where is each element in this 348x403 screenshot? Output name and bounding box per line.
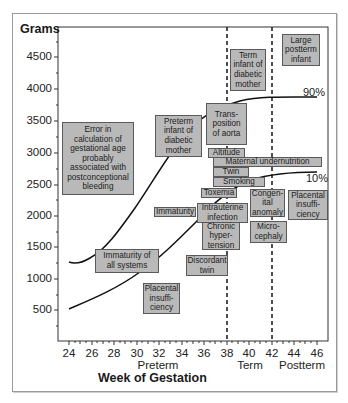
- annotation-error-gestational-age: Error in calculation of gestational age …: [62, 122, 134, 195]
- x-axis-title: Week of Gestation: [98, 371, 207, 385]
- y-tick-label: 1500: [12, 240, 52, 252]
- annotation-discordant-twin: Discordant twin: [186, 255, 228, 276]
- annotation-twin: Twin: [213, 167, 249, 177]
- phase-label-preterm: Preterm: [128, 359, 188, 371]
- x-tick-label: 38: [217, 347, 237, 359]
- x-tick-label: 26: [82, 347, 102, 359]
- y-tick-label: 3500: [12, 114, 52, 126]
- y-tick-label: 3000: [12, 146, 52, 158]
- phase-label-postterm: Postterm: [272, 359, 332, 371]
- x-tick-label: 30: [127, 347, 147, 359]
- annotation-transposition-aorta: Trans- position of aorta: [206, 103, 247, 145]
- percentile-90-label: 90%: [303, 86, 325, 98]
- x-tick-label: 34: [172, 347, 192, 359]
- annotation-intrauterine-infection: Intrauterine infection: [197, 203, 248, 223]
- annotation-large-postterm-infant: Large postterm infant: [282, 34, 320, 66]
- y-tick-label: 1000: [12, 272, 52, 284]
- annotation-preterm-diabetic-mother: Preterm infant of diabetic mother: [155, 115, 202, 157]
- x-tick-label: 28: [104, 347, 124, 359]
- y-tick-label: 500: [12, 303, 52, 315]
- annotation-placental-insufficiency-right: Placental insuffi- ciency: [288, 190, 328, 220]
- y-tick-label: 4500: [12, 50, 52, 62]
- annotation-microcephaly: Micro- cephaly: [250, 221, 287, 243]
- phase-label-term: Term: [235, 359, 265, 371]
- percentile-10-label: 10%: [306, 172, 328, 184]
- x-tick-label: 24: [59, 347, 79, 359]
- y-ticks: [54, 42, 58, 326]
- x-tick-label: 36: [194, 347, 214, 359]
- x-tick-label: 32: [149, 347, 169, 359]
- annotation-toxemia: Toxemia: [201, 188, 237, 198]
- y-axis-title: Grams: [20, 22, 60, 36]
- y-tick-label: 2500: [12, 178, 52, 190]
- annotation-immaturity-all-systems: Immaturity of all systems: [95, 249, 159, 273]
- x-tick-label: 42: [262, 347, 282, 359]
- annotation-congenital-anomaly: Congen- ital anomaly: [250, 189, 285, 217]
- annotation-maternal-undernutrition: Maternal undernutrition: [213, 157, 322, 167]
- y-tick-label: 2000: [12, 209, 52, 221]
- x-tick-label: 40: [239, 347, 259, 359]
- x-tick-label: 46: [307, 347, 327, 359]
- annotation-term-diabetic-mother: Term infant of diabetic mother: [230, 49, 266, 91]
- x-tick-label: 44: [284, 347, 304, 359]
- annotation-placental-insufficiency-left: Placental insuffi- ciency: [143, 283, 180, 314]
- annotation-immaturity: Immaturity: [154, 207, 196, 217]
- annotation-smoking: Smoking: [213, 177, 265, 187]
- annotation-chronic-hypertension: Chronic hyper- tension: [202, 222, 240, 250]
- x-ticks: [69, 341, 317, 345]
- y-tick-label: 4000: [12, 82, 52, 94]
